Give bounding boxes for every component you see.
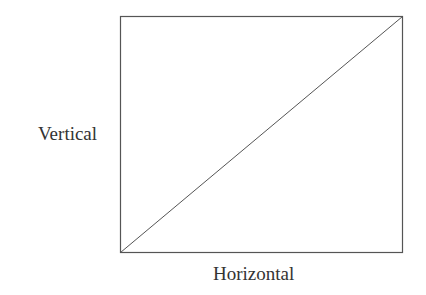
horizontal-axis-label: Horizontal [213, 264, 294, 283]
vertical-axis-label: Vertical [38, 124, 97, 143]
diagonal-line [121, 17, 403, 253]
diagram-canvas [0, 0, 426, 295]
